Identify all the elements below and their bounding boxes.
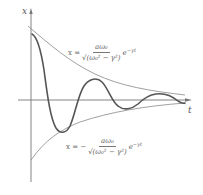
upper-formula-numerator: aω₀	[93, 43, 110, 53]
upper-formula-denominator: √(ω₀² − γ²)	[82, 53, 121, 62]
lower-formula-denominator: √(ω₀² − γ²)	[88, 147, 127, 156]
upper-formula-lhs: x =	[68, 49, 80, 57]
lower-envelope-formula: x = − aω₀ √(ω₀² − γ²) e−γt	[66, 137, 142, 156]
lower-formula-numerator: aω₀	[99, 137, 116, 147]
lower-formula-lhs: x = −	[66, 143, 86, 151]
upper-formula-fraction: aω₀ √(ω₀² − γ²)	[82, 43, 121, 62]
upper-envelope-formula: x = aω₀ √(ω₀² − γ²) e−γt	[68, 43, 136, 62]
damped-oscillation-diagram	[0, 0, 203, 195]
lower-formula-exponent: −γt	[133, 141, 142, 147]
vertical-axis-arrow	[29, 8, 32, 14]
lower-formula-fraction: aω₀ √(ω₀² − γ²)	[88, 137, 127, 156]
horizontal-axis-label: t	[188, 106, 192, 115]
upper-formula-exponent: −γt	[127, 47, 136, 53]
vertical-axis-label: x	[22, 7, 27, 16]
horizontal-axis-arrow	[185, 98, 192, 101]
